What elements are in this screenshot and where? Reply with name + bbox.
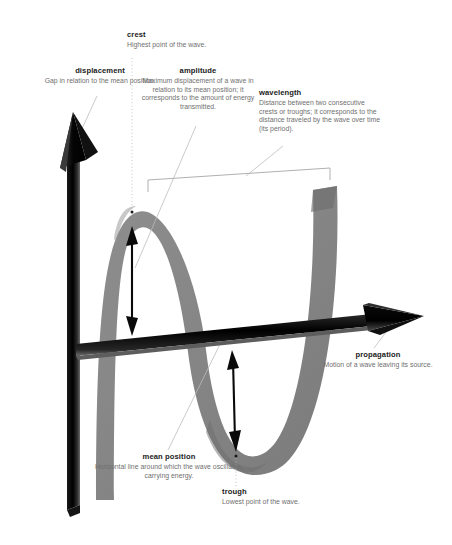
label-amplitude-desc: Maximum displacement of a wave in relati… bbox=[138, 77, 258, 111]
label-trough-term: trough bbox=[222, 487, 342, 497]
amplitude-double-arrow-crest bbox=[126, 226, 138, 336]
label-amplitude: amplitude Maximum displacement of a wave… bbox=[138, 66, 258, 111]
label-propagation: propagation Motion of a wave leaving its… bbox=[305, 350, 451, 370]
amplitude-double-arrow-trough bbox=[227, 350, 241, 452]
label-propagation-term: propagation bbox=[305, 350, 451, 360]
diagram-canvas: displacement Gap in relation to the mean… bbox=[0, 0, 452, 545]
label-amplitude-term: amplitude bbox=[138, 66, 258, 76]
label-crest: crest Highest point of the wave. bbox=[127, 30, 257, 50]
label-crest-term: crest bbox=[127, 30, 257, 40]
label-mean-position-term: mean position bbox=[86, 452, 252, 462]
label-propagation-desc: Motion of a wave leaving its source. bbox=[305, 361, 451, 370]
label-mean-position: mean position Horizontal line around whi… bbox=[86, 452, 252, 480]
label-trough: trough Lowest point of the wave. bbox=[222, 487, 342, 507]
label-mean-position-desc: Horizontal line around which the wave os… bbox=[86, 463, 252, 480]
label-trough-desc: Lowest point of the wave. bbox=[222, 498, 342, 507]
label-wavelength-desc: Distance between two consecutive crests … bbox=[259, 99, 381, 133]
label-crest-desc: Highest point of the wave. bbox=[127, 41, 257, 50]
label-wavelength: wavelength Distance between two consecut… bbox=[259, 88, 381, 133]
wavelength-span-bracket bbox=[148, 168, 330, 192]
label-wavelength-term: wavelength bbox=[259, 88, 381, 98]
